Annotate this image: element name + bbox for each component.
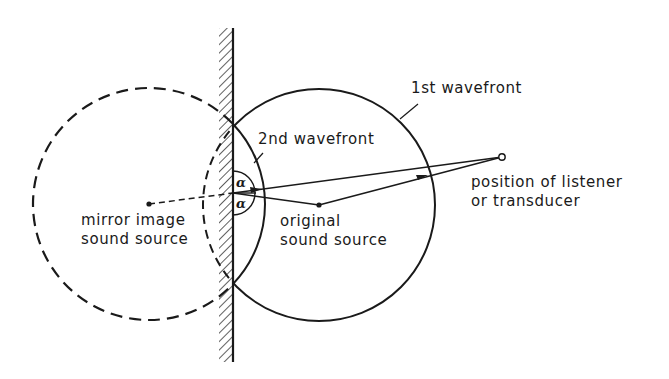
angle-alpha-upper: α [236, 175, 246, 190]
original-source-label-line2: sound source [280, 231, 387, 249]
listener-label-line2: or transducer [471, 192, 580, 210]
mirror-source-point [146, 201, 151, 206]
mirror-source-label-line2: sound source [81, 230, 188, 248]
angle-alpha-lower: α [236, 196, 246, 211]
first-wavefront-label: 1st wavefront [411, 79, 522, 97]
original-source-label-line1: original [280, 212, 341, 230]
ray-paths [149, 157, 502, 205]
listener-label-line1: position of listener [471, 173, 623, 191]
listener-point [499, 154, 505, 160]
sound-reflection-diagram: α α 1st wavefront 2nd wavefront mirror i… [0, 0, 669, 379]
original-source-point [316, 202, 321, 207]
mirror-source-label-line1: mirror image [81, 211, 186, 229]
reflected-ray [233, 157, 502, 193]
first-wavefront-leader [400, 104, 418, 119]
second-wavefront-label: 2nd wavefront [258, 130, 374, 148]
angle-markings: α α [233, 171, 256, 215]
